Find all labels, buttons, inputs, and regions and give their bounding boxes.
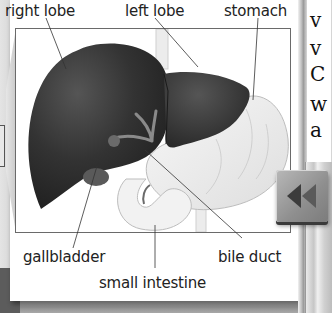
label-right-lobe: right lobe xyxy=(5,2,75,20)
back-button[interactable] xyxy=(276,170,328,222)
label-stomach: stomach xyxy=(224,2,287,20)
rewind-icon xyxy=(285,182,319,210)
anatomy-illustration xyxy=(15,28,291,233)
liver-stomach-drawing xyxy=(16,29,290,232)
side-text-line: a xyxy=(310,120,322,140)
side-text-line: v xyxy=(310,10,321,30)
side-text-line: v xyxy=(310,38,321,58)
left-edge-bracket xyxy=(0,125,5,167)
label-left-lobe: left lobe xyxy=(125,2,184,20)
label-bile-duct: bile duct xyxy=(218,248,281,266)
side-text-line: w xyxy=(310,94,327,114)
label-small-intestine: small intestine xyxy=(99,274,206,292)
side-text-line: C xyxy=(310,64,325,84)
label-gallbladder: gallbladder xyxy=(23,248,105,266)
